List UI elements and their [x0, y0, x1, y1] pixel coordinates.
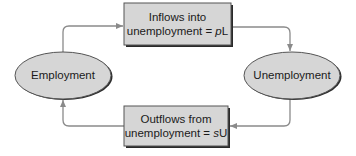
connector-unemployment-to-outflows	[230, 99, 290, 126]
connector-outflows-to-employment	[63, 100, 124, 126]
diagram-canvas	[0, 0, 356, 156]
inflows-box	[124, 3, 233, 47]
unemployment-ellipse	[244, 52, 342, 100]
outflows-box	[124, 106, 230, 148]
labor-flow-diagram: Inflows into unemployment = pL Outflows …	[0, 0, 356, 156]
employment-ellipse	[15, 52, 113, 100]
connector-inflows-to-unemployment	[232, 27, 290, 51]
connector-employment-to-inflows	[63, 26, 123, 52]
